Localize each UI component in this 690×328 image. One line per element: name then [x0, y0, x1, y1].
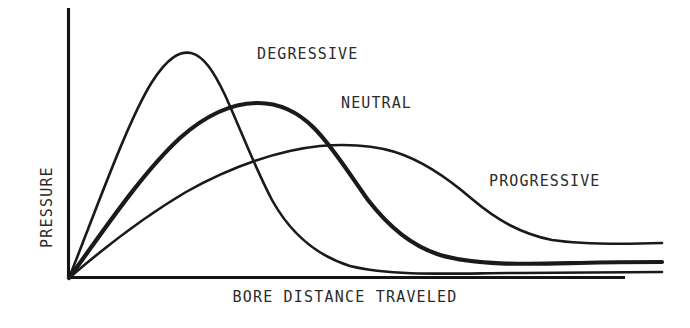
x-axis-label: BORE DISTANCE TRAVELED [0, 288, 690, 306]
series-label-progressive: PROGRESSIVE [489, 172, 600, 190]
pressure-vs-bore-distance-chart: DEGRESSIVE NEUTRAL PROGRESSIVE BORE DIST… [0, 0, 690, 328]
y-axis-label: PRESSURE [38, 166, 56, 248]
y-axis-label-wrapper: PRESSURE [8, 120, 48, 250]
series-label-degressive: DEGRESSIVE [257, 45, 358, 63]
series-label-neutral: NEUTRAL [341, 94, 412, 112]
curve-neutral [69, 103, 662, 278]
curve-progressive [69, 145, 662, 278]
curve-degressive [69, 53, 662, 278]
